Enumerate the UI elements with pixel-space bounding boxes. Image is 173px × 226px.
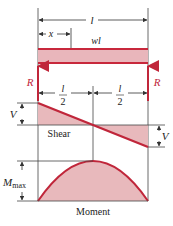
beam-shear-moment-diagram: l x wl R R l 2 l 2 — [0, 0, 173, 226]
shear-diagram: Shear V V — [10, 103, 170, 147]
left-reaction-label: R — [26, 76, 34, 88]
left-reaction: R — [26, 66, 38, 101]
shear-left-magnitude-label: V — [10, 108, 18, 120]
moment-diagram: Mmax Moment — [2, 161, 148, 217]
right-reaction-label: R — [153, 76, 161, 88]
moment-max-label: Mmax — [2, 176, 26, 190]
position-dimension: x — [39, 28, 71, 48]
half-span-right-numerator: l — [119, 83, 122, 94]
span-dimension: l — [39, 14, 147, 26]
shear-title: Shear — [48, 128, 71, 139]
half-span-left-denominator: 2 — [61, 96, 66, 107]
load-label: wl — [91, 35, 101, 46]
position-label: x — [48, 28, 54, 39]
half-span-right-denominator: 2 — [118, 96, 123, 107]
span-label: l — [90, 14, 93, 26]
moment-title: Moment — [76, 206, 110, 217]
shear-right-magnitude-label: V — [162, 130, 170, 142]
half-span-left-numerator: l — [62, 83, 65, 94]
beam — [38, 49, 148, 63]
right-reaction: R — [148, 66, 161, 101]
